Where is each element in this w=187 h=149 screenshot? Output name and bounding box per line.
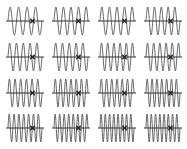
- wave-panel: [144, 79, 182, 107]
- sine-wave-canvas: [0, 0, 187, 149]
- wave-panel: [6, 114, 44, 142]
- sine-wave-grid: [0, 0, 187, 149]
- wave-panel: [6, 79, 44, 107]
- wave-panel: [144, 114, 182, 142]
- wave-panel: [98, 79, 136, 107]
- wave-panel: [52, 7, 90, 35]
- wave-panel: [144, 7, 182, 35]
- wave-panel: [52, 114, 90, 142]
- wave-panel: [52, 43, 90, 71]
- wave-panel: [98, 114, 136, 142]
- wave-panel: [6, 7, 44, 35]
- wave-panel: [98, 43, 136, 71]
- wave-panel: [144, 43, 182, 71]
- wave-panel: [6, 43, 44, 71]
- wave-panel: [98, 7, 136, 35]
- wave-panel: [52, 79, 90, 107]
